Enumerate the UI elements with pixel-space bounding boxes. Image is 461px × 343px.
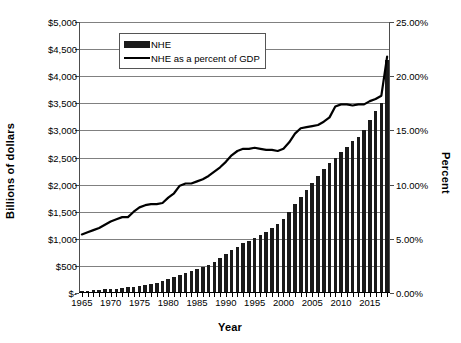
legend-bar-swatch-icon [124,41,150,48]
x-axis-tick [295,293,296,297]
x-axis-tick-label: 1985 [187,297,208,308]
y-axis-right-line [389,22,390,293]
chart-container: Billions of dollars Percent Year $-$500$… [0,0,461,343]
x-axis-tick [353,293,354,297]
x-axis-tick [209,293,210,297]
x-axis-tick [266,293,267,297]
y-axis-right-title: Percent [438,118,454,228]
x-axis-tick-label: 1990 [215,297,236,308]
y-axis-right-tick [390,76,394,77]
x-axis-tick [93,293,94,297]
legend-label-nhe: NHE [151,39,171,50]
y-axis-right-tick [390,185,394,186]
y-axis-left-tick-label: $3,500 [48,98,77,109]
y-axis-left-tick-label: $3,000 [48,125,77,136]
y-axis-left-tick-label: $2,500 [48,152,77,163]
x-axis-tick [387,293,388,297]
y-axis-left-title: Billions of dollars [2,96,18,246]
x-axis-title: Year [170,321,290,333]
x-axis-tick-label: 1975 [129,297,150,308]
x-axis-tick-label: 2015 [359,297,380,308]
x-axis-tick [122,293,123,297]
legend-label-nhe-percent-gdp: NHE as a percent of GDP [151,53,260,64]
legend-item-nhe: NHE [124,37,261,51]
x-axis-tick-label: 2005 [302,297,323,308]
y-axis-left-line [79,22,80,293]
y-axis-left-tick-label: $2,000 [48,179,77,190]
x-axis-tick-label: 1980 [158,297,179,308]
y-axis-right-tick-label: 10.00% [396,179,428,190]
y-axis-right-tick-label: 5.00% [396,233,423,244]
x-axis-tick [381,293,382,297]
x-axis-tick-label: 2010 [330,297,351,308]
y-axis-left-tick-label: $4,500 [48,44,77,55]
y-axis-right-tick-label: 0.00% [396,288,423,299]
y-axis-right-tick-label: 15.00% [396,125,428,136]
y-axis-right-tick-label: 25.00% [396,17,428,28]
x-axis-tick-label: 2000 [273,297,294,308]
chart-legend: NHE NHE as a percent of GDP [119,33,266,69]
x-axis-tick-label: 1970 [100,297,121,308]
x-axis-tick-label: 1965 [71,297,92,308]
y-axis-left-tick-label: $4,000 [48,71,77,82]
y-axis-left-tick-label: $5,000 [48,17,77,28]
x-axis-tick-label: 1995 [244,297,265,308]
x-axis-tick [151,293,152,297]
y-axis-right-tick [390,293,394,294]
y-axis-right-tick-label: 20.00% [396,71,428,82]
legend-line-swatch-icon [124,57,150,59]
y-axis-right-tick [390,130,394,131]
y-axis-left-tick-label: $1,500 [48,206,77,217]
x-axis-tick [180,293,181,297]
legend-item-nhe-percent-gdp: NHE as a percent of GDP [124,51,261,65]
y-axis-left-tick-label: $500 [56,260,77,271]
y-axis-right-tick [390,239,394,240]
x-axis-tick [324,293,325,297]
y-axis-right-tick [390,22,394,23]
x-axis-tick [237,293,238,297]
y-axis-left-tick-label: $1,000 [48,233,77,244]
x-axis-line [79,292,390,293]
